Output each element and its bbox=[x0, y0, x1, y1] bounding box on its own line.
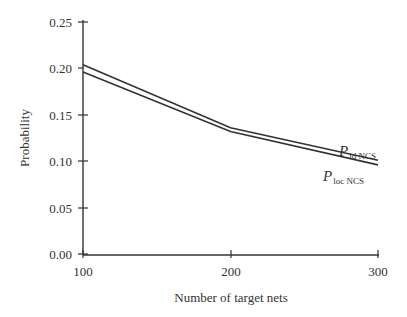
svg-text:0.20: 0.20 bbox=[49, 61, 72, 76]
x-axis-title: Number of target nets bbox=[174, 290, 287, 305]
svg-text:200: 200 bbox=[221, 264, 241, 279]
y-tick-labels: 0.25 0.20 0.15 0.10 0.05 0.00 bbox=[49, 15, 72, 262]
line-chart: 0.25 0.20 0.15 0.10 0.05 0.00 100 200 30… bbox=[0, 0, 407, 317]
series-label-p-id-ncs: Pid NCS bbox=[338, 143, 376, 161]
svg-text:0.05: 0.05 bbox=[49, 201, 72, 216]
x-tick-labels: 100 200 300 bbox=[73, 264, 388, 279]
svg-text:300: 300 bbox=[368, 264, 388, 279]
y-axis-title: Probability bbox=[17, 109, 32, 167]
series-label-p-loc-ncs: Ploc NCS bbox=[322, 168, 364, 186]
svg-text:0.25: 0.25 bbox=[49, 15, 72, 30]
x-ticks bbox=[83, 250, 378, 258]
svg-text:100: 100 bbox=[73, 264, 93, 279]
series-line-p-id-ncs bbox=[83, 65, 378, 161]
svg-text:0.00: 0.00 bbox=[49, 247, 72, 262]
svg-text:0.15: 0.15 bbox=[49, 108, 72, 123]
svg-text:0.10: 0.10 bbox=[49, 154, 72, 169]
